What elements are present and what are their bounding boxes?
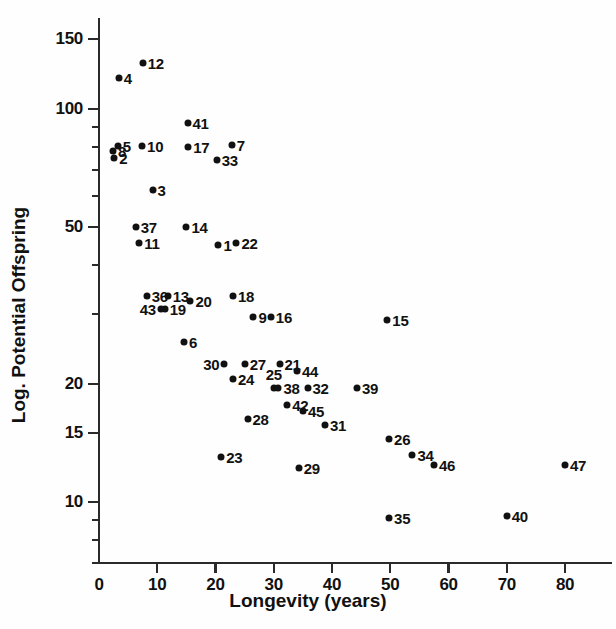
data-point-marker	[183, 224, 190, 231]
data-point-marker	[184, 119, 191, 126]
data-point-marker	[386, 515, 393, 522]
data-point-label: 45	[308, 403, 324, 420]
data-point-marker	[503, 513, 510, 520]
x-tick-label-0: 0	[94, 575, 103, 595]
data-point-marker	[221, 360, 228, 367]
data-point-marker	[304, 384, 311, 391]
data-point-marker	[295, 465, 302, 472]
data-point-label: 20	[195, 292, 211, 309]
data-point-marker	[250, 314, 257, 321]
data-point-label: 16	[276, 309, 292, 326]
data-point-marker	[187, 297, 194, 304]
scatter-plot-figure: 1234567891011121314151617181920212223242…	[0, 0, 616, 629]
data-point-label: 35	[394, 510, 410, 527]
data-point-label: 44	[302, 363, 318, 380]
data-point-marker	[181, 339, 188, 346]
data-point-marker	[409, 451, 416, 458]
x-tick-label-50: 50	[381, 575, 399, 595]
data-point-marker	[139, 142, 146, 149]
data-point-marker	[213, 157, 220, 164]
data-point-label: 41	[193, 114, 209, 131]
data-point-label: 4	[124, 69, 132, 86]
data-point-label: 47	[570, 457, 586, 474]
y-tick-label-15: 15	[65, 423, 83, 443]
y-tick-label-20: 20	[65, 374, 83, 394]
data-point-label: 38	[283, 379, 299, 396]
data-point-marker	[244, 415, 251, 422]
data-point-marker	[275, 384, 282, 391]
data-point-marker	[233, 240, 240, 247]
data-point-label: 40	[512, 508, 528, 525]
data-point-marker	[322, 421, 329, 428]
data-point-label: 31	[330, 416, 346, 433]
data-point-marker	[430, 462, 437, 469]
x-tick-label-40: 40	[323, 575, 341, 595]
data-point-label: 25	[266, 366, 282, 383]
data-point-marker	[267, 314, 274, 321]
data-point-marker	[143, 292, 150, 299]
data-point-marker	[228, 141, 235, 148]
data-point-label: 37	[141, 219, 157, 236]
data-point-marker	[241, 360, 248, 367]
data-point-label: 23	[226, 449, 242, 466]
data-point-marker	[354, 384, 361, 391]
data-point-label: 33	[222, 152, 238, 169]
data-point-marker	[562, 462, 569, 469]
y-tick-label-10: 10	[65, 492, 83, 512]
data-point-label: 6	[189, 334, 197, 351]
data-point-label: 30	[203, 355, 219, 372]
data-point-marker	[115, 74, 122, 81]
x-tick-label-70: 70	[498, 575, 516, 595]
data-point-marker	[229, 292, 236, 299]
data-point-label: 46	[439, 457, 455, 474]
data-point-label: 27	[250, 355, 266, 372]
data-point-label: 7	[237, 136, 245, 153]
data-point-label: 18	[238, 287, 254, 304]
data-point-label: 8	[118, 143, 126, 160]
data-point-marker	[384, 317, 391, 324]
y-tick-label-150: 150	[56, 29, 83, 49]
data-point-label: 14	[191, 219, 207, 236]
plot-axes-svg	[0, 0, 616, 629]
y-tick-label-100: 100	[56, 99, 83, 119]
data-point-marker	[149, 187, 156, 194]
data-point-label: 1	[223, 237, 231, 254]
x-tick-label-30: 30	[265, 575, 283, 595]
x-tick-label-20: 20	[206, 575, 224, 595]
data-point-label: 12	[148, 54, 164, 71]
data-point-marker	[299, 408, 306, 415]
data-point-marker	[284, 401, 291, 408]
y-tick-label-50: 50	[65, 217, 83, 237]
data-point-label: 29	[304, 460, 320, 477]
data-point-marker	[136, 240, 143, 247]
data-point-marker	[229, 376, 236, 383]
data-point-label: 22	[241, 235, 257, 252]
data-point-marker	[139, 59, 146, 66]
data-point-marker	[111, 154, 118, 161]
data-point-label: 19	[170, 300, 186, 317]
data-point-label: 28	[253, 410, 269, 427]
data-point-label: 15	[392, 312, 408, 329]
data-point-label: 17	[193, 138, 209, 155]
data-point-marker	[109, 148, 116, 155]
y-axis-title: Log. Potential Offspring	[8, 207, 30, 423]
x-axis-title: Longevity (years)	[229, 590, 386, 612]
data-point-label: 11	[144, 235, 159, 252]
data-point-label: 9	[258, 309, 266, 326]
data-point-marker	[215, 242, 222, 249]
data-point-marker	[218, 454, 225, 461]
data-point-marker	[157, 305, 164, 312]
data-point-label: 3	[158, 182, 166, 199]
data-point-marker	[185, 143, 192, 150]
data-point-label: 10	[147, 137, 163, 154]
data-point-label: 26	[394, 430, 410, 447]
data-point-marker	[294, 368, 301, 375]
data-point-label: 43	[140, 300, 156, 317]
data-point-label: 24	[238, 371, 254, 388]
data-point-marker	[386, 435, 393, 442]
x-tick-label-60: 60	[439, 575, 457, 595]
data-point-label: 34	[417, 446, 433, 463]
data-point-marker	[132, 224, 139, 231]
data-point-label: 32	[313, 379, 329, 396]
data-point-label: 39	[362, 379, 378, 396]
